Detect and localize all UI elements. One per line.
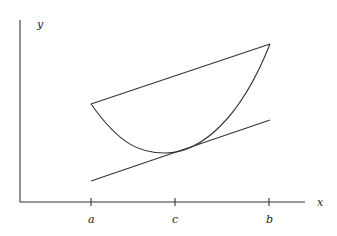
convexity-diagram: y x a c b: [0, 0, 337, 236]
convex-curve: [91, 44, 270, 153]
secant-line: [91, 44, 270, 104]
tangent-line: [91, 120, 270, 181]
x-axis-label: x: [317, 196, 324, 209]
tick-label-b: b: [266, 213, 273, 226]
tick-label-a: a: [88, 213, 95, 226]
y-axis-label: y: [36, 18, 44, 31]
tick-label-c: c: [172, 213, 178, 226]
